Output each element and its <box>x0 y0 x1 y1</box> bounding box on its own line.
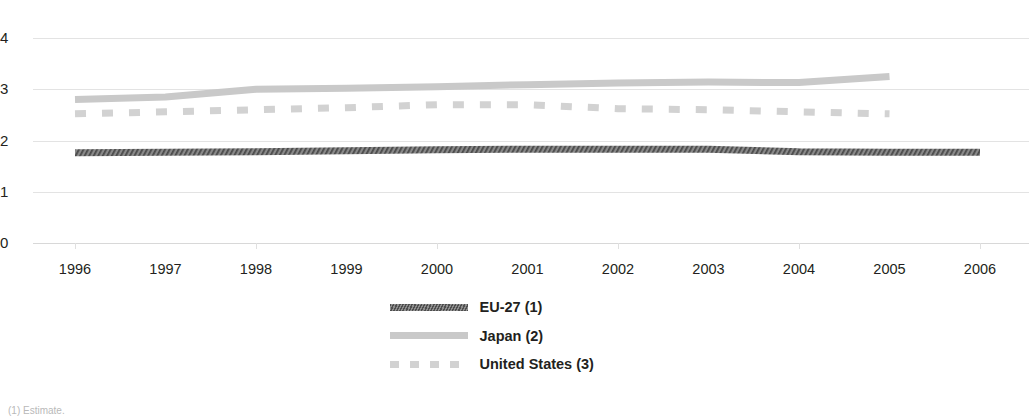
x-tick-label-1997: 1997 <box>149 262 181 277</box>
x-tick-label-2001: 2001 <box>511 262 543 277</box>
footnote: (1) Estimate. <box>8 406 65 416</box>
chart-legend: EU-27 (1) Japan (2) United States (3) <box>0 300 1029 372</box>
legend-label-eu-27: EU-27 (1) <box>480 300 543 315</box>
x-tick-mark-1998 <box>256 243 257 249</box>
y-tick-label-1: 1 <box>0 184 26 199</box>
x-tick-mark-2000 <box>437 243 438 249</box>
legend-label-united-states: United States (3) <box>480 357 594 372</box>
united-states-line-swatch-icon <box>390 361 468 368</box>
legend-item-japan[interactable]: Japan (2) <box>390 329 640 344</box>
x-axis-tick-labels: 1996199719981999200020012002200320042005… <box>33 262 1029 284</box>
series-line-japan <box>75 76 890 99</box>
x-tick-label-2002: 2002 <box>602 262 634 277</box>
legend-item-eu-27[interactable]: EU-27 (1) <box>390 300 640 315</box>
series-line-eu-27 <box>75 149 980 153</box>
y-tick-label-0: 0 <box>0 235 26 250</box>
x-axis-line <box>33 243 1029 244</box>
x-tick-label-1998: 1998 <box>240 262 272 277</box>
x-tick-label-2003: 2003 <box>692 262 724 277</box>
y-tick-label-3: 3 <box>0 81 26 96</box>
series-line-united-states <box>75 105 890 114</box>
legend-label-japan: Japan (2) <box>480 329 544 344</box>
y-tick-label-4: 4 <box>0 30 26 45</box>
series-layer <box>33 38 1029 243</box>
x-tick-mark-2006 <box>980 243 981 249</box>
japan-line-swatch-icon <box>390 332 468 339</box>
legend-item-united-states[interactable]: United States (3) <box>390 357 640 372</box>
y-tick-label-2: 2 <box>0 133 26 148</box>
plot-area <box>33 38 1029 243</box>
x-tick-label-2006: 2006 <box>964 262 996 277</box>
x-tick-mark-2004 <box>799 243 800 249</box>
x-tick-label-1999: 1999 <box>330 262 362 277</box>
x-tick-mark-1996 <box>75 243 76 249</box>
x-tick-label-1996: 1996 <box>59 262 91 277</box>
x-tick-label-2004: 2004 <box>783 262 815 277</box>
x-tick-mark-2002 <box>618 243 619 249</box>
eu-27-line-swatch-icon <box>390 304 468 311</box>
x-tick-label-2000: 2000 <box>421 262 453 277</box>
x-tick-label-2005: 2005 <box>873 262 905 277</box>
